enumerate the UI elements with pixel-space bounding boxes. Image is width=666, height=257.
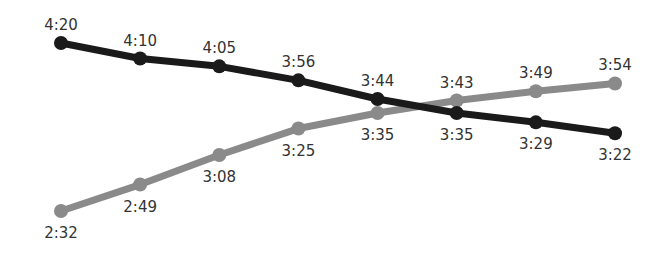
data-point [291,122,305,136]
data-point [450,106,464,120]
data-label: 3:44 [361,72,395,90]
data-point [371,106,385,120]
data-point [608,126,622,140]
data-label: 3:25 [282,142,316,160]
data-label: 3:29 [519,135,553,153]
data-label: 3:35 [440,126,474,144]
data-label: 3:43 [440,74,474,92]
data-label: 3:49 [519,64,553,82]
data-label: 3:35 [361,126,395,144]
data-point [54,36,68,50]
data-label: 3:08 [202,168,236,186]
data-point [450,94,464,108]
data-point [133,52,147,66]
data-point [608,76,622,90]
data-point [133,178,147,192]
data-point [371,92,385,106]
data-label: 2:32 [44,224,78,242]
data-label: 4:05 [202,39,236,57]
data-label: 4:20 [44,16,78,34]
line-chart: 4:204:104:053:563:443:353:293:222:322:49… [0,0,666,257]
data-label: 3:56 [282,53,316,71]
data-label: 3:22 [598,146,632,164]
data-point [529,84,543,98]
data-label: 3:54 [598,56,632,74]
data-point [291,73,305,87]
data-labels: 4:204:104:053:563:443:353:293:222:322:49… [44,16,632,242]
data-label: 2:49 [123,198,157,216]
data-point [529,115,543,129]
data-point [212,59,226,73]
data-point [54,204,68,218]
data-point [212,148,226,162]
data-label: 4:10 [123,32,157,50]
